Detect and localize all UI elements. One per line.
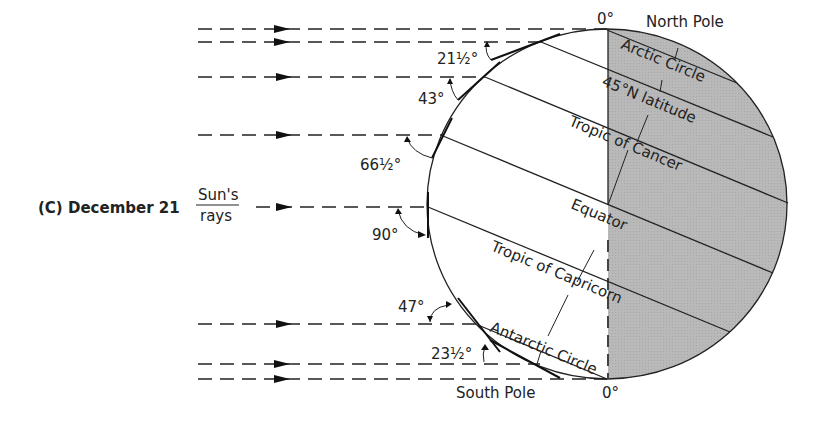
figure-caption: (C) December 21 Sun's rays <box>38 186 239 225</box>
panel-label: (C) <box>38 199 63 217</box>
north-pole-label: North Pole <box>646 13 724 31</box>
arrow-icon <box>274 38 290 46</box>
angle-label-66-5: 66½° <box>360 156 401 174</box>
angle-label-21-5: 21½° <box>437 50 478 68</box>
arrow-icon <box>274 360 290 368</box>
angle-label-90: 90° <box>372 226 399 244</box>
arrow-icon <box>276 131 292 139</box>
angle-label-43: 43° <box>418 90 445 108</box>
earth-sun-angle-diagram: Arctic Circle 45°N latitude Tropic of Ca… <box>0 0 828 424</box>
arrow-icon <box>274 375 290 383</box>
rays-label-top: Sun's <box>198 186 239 204</box>
angle-label-47: 47° <box>398 298 425 316</box>
arrow-icon <box>274 25 290 33</box>
angle-label-23-5: 23½° <box>431 345 472 363</box>
night-hemisphere <box>608 20 808 390</box>
arrow-icon <box>276 73 292 81</box>
tropic-of-capricorn-label: Tropic of Capricorn <box>488 237 625 308</box>
arrow-icon <box>276 203 292 211</box>
arrow-icons <box>274 25 292 383</box>
south-pole-angle: 0° <box>602 384 619 402</box>
south-pole-label: South Pole <box>456 384 535 402</box>
arrow-icon <box>276 320 292 328</box>
sun-rays <box>198 25 607 383</box>
date-label: December 21 <box>68 199 180 217</box>
rays-label-bottom: rays <box>200 207 232 225</box>
north-pole-angle: 0° <box>597 10 614 28</box>
